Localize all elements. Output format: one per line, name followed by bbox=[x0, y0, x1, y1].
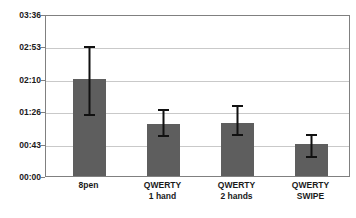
y-tick-mark bbox=[41, 177, 45, 178]
error-bar-cap-top bbox=[306, 134, 317, 136]
error-bar-cap-bottom bbox=[232, 134, 243, 136]
error-bar-stem bbox=[89, 46, 91, 116]
x-tick-label-qwerty-2-hands: QWERTY 2 hands bbox=[210, 180, 263, 202]
bar-slot bbox=[73, 16, 106, 176]
error-bar-cap-bottom bbox=[306, 156, 317, 158]
error-bar-stem bbox=[237, 105, 239, 137]
error-bar-qwerty-2-hands bbox=[237, 105, 238, 137]
error-bar-cap-bottom bbox=[84, 114, 95, 116]
error-bar-cap-top bbox=[158, 109, 169, 111]
error-bar-cap-bottom bbox=[158, 135, 169, 137]
plot-area bbox=[45, 15, 350, 177]
y-axis: 03:36 02:53 02:10 01:26 00:43 00:00 bbox=[0, 0, 41, 218]
bar-slot bbox=[147, 16, 180, 176]
error-bar-8pen bbox=[89, 46, 90, 116]
y-tick-label: 02:53 bbox=[0, 43, 41, 51]
y-tick-label: 00:00 bbox=[0, 173, 41, 181]
x-axis: 8pen QWERTY 1 hand QWERTY 2 hands QWERTY… bbox=[45, 180, 350, 216]
bar-slot bbox=[295, 16, 328, 176]
y-tick-label: 02:10 bbox=[0, 76, 41, 84]
error-bar-stem bbox=[163, 109, 165, 137]
error-bar-cap-top bbox=[84, 46, 95, 48]
y-tick-label: 00:43 bbox=[0, 141, 41, 149]
y-tick-label: 03:36 bbox=[0, 11, 41, 19]
error-bar-stem bbox=[311, 134, 313, 158]
error-bar-qwerty-swipe bbox=[311, 134, 312, 158]
x-tick-label-qwerty-1-hand: QWERTY 1 hand bbox=[136, 180, 189, 202]
bar-chart: 03:36 02:53 02:10 01:26 00:43 00:00 bbox=[0, 0, 356, 218]
x-tick-label-qwerty-swipe: QWERTY SWIPE bbox=[284, 180, 337, 202]
error-bar-cap-top bbox=[232, 105, 243, 107]
y-tick-label: 01:26 bbox=[0, 108, 41, 116]
x-tick-label-8pen: 8pen bbox=[62, 180, 115, 191]
bar-slot bbox=[221, 16, 254, 176]
error-bar-qwerty-1-hand bbox=[163, 109, 164, 137]
